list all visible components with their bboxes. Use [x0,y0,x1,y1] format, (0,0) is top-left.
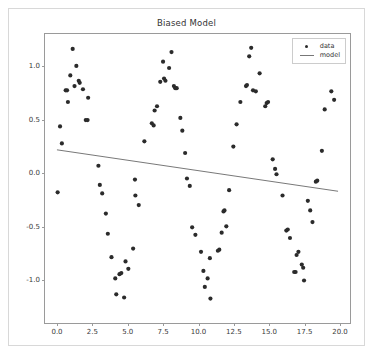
data-point [131,247,135,251]
data-point [183,151,187,155]
x-tick-mark [163,323,164,326]
data-point [119,271,123,275]
y-tick-mark [42,280,45,281]
scatter-plot-svg [45,34,350,323]
data-point [137,203,141,207]
data-point [294,270,298,274]
data-point [280,193,284,197]
data-point [155,104,159,108]
x-tick-mark [128,323,129,326]
data-point [104,211,108,215]
x-tick-mark [199,323,200,326]
data-point [308,208,312,212]
data-point [68,73,72,77]
x-tick-mark [340,323,341,326]
x-tick-label: 2.5 [87,328,98,336]
data-point [266,100,270,104]
data-point [222,208,226,212]
y-tick-label: -0.5 [26,223,40,231]
data-point [122,295,126,299]
data-points [56,46,337,301]
data-point [193,233,197,237]
data-point [199,250,203,254]
legend-item-data: data [297,42,340,51]
x-tick-mark [305,323,306,326]
data-point [185,176,189,180]
chart-legend: data model [292,38,346,64]
y-tick-label: 0.5 [29,116,40,124]
data-point [178,116,182,120]
data-point [71,47,75,51]
data-point [175,86,179,90]
x-tick-label: 15.0 [261,328,277,336]
x-tick-label: 17.5 [297,328,313,336]
y-tick-mark [42,66,45,67]
data-point [96,164,100,168]
data-point [245,83,249,87]
data-point [234,122,238,126]
data-point [296,250,300,254]
data-point [180,129,184,133]
x-tick-label: 0.0 [51,328,62,336]
data-point [320,149,324,153]
legend-marker-line-icon [297,55,317,56]
data-point [329,89,333,93]
data-point [98,183,102,187]
x-tick-mark [92,323,93,326]
data-point [109,255,113,259]
data-point [201,269,205,273]
data-point [301,266,305,270]
data-point [315,179,319,183]
legend-label-model: model [320,51,340,60]
legend-marker-dot-icon [297,45,317,48]
data-point [81,87,85,91]
x-tick-label: 7.5 [158,328,169,336]
data-point [247,54,251,58]
data-point [133,193,137,197]
data-point [152,123,156,127]
data-point [217,248,221,252]
y-tick-label: 1.0 [29,62,40,70]
data-point [133,177,137,181]
legend-item-model: model [297,51,340,60]
data-point [254,89,258,93]
data-point [286,227,290,231]
data-point [231,145,235,149]
data-point [113,276,117,280]
x-tick-mark [57,323,58,326]
data-point [323,107,327,111]
plot-axes-area: 1.00.50.0-0.5-1.0 0.02.55.07.510.012.515… [44,33,351,324]
data-point [66,100,70,104]
data-point [273,167,277,171]
data-point [332,98,336,102]
data-point [306,199,310,203]
data-point [72,84,76,88]
data-point [123,259,127,263]
data-point [86,118,90,122]
data-point [163,79,167,83]
data-point [238,100,242,104]
figure-canvas: Biased Model 1.00.50.0-0.5-1.0 0.02.55.0… [8,8,365,346]
data-point [167,66,171,70]
data-point [74,64,78,68]
y-tick-label: 0.0 [29,169,40,177]
y-tick-mark [42,173,45,174]
data-point [203,285,207,289]
data-point [106,232,110,236]
y-tick-label: -1.0 [26,276,40,284]
data-point [65,88,69,92]
data-point [58,124,62,128]
x-tick-label: 5.0 [122,328,133,336]
data-point [86,96,90,100]
data-point [56,190,60,194]
x-tick-mark [269,323,270,326]
data-point [190,225,194,229]
data-point [206,276,210,280]
data-point [208,256,212,260]
page-title: Biased Model [9,18,364,28]
data-point [310,220,314,224]
data-point [114,292,118,296]
data-point [227,188,231,192]
data-point [249,46,253,50]
x-tick-label: 20.0 [332,328,348,336]
